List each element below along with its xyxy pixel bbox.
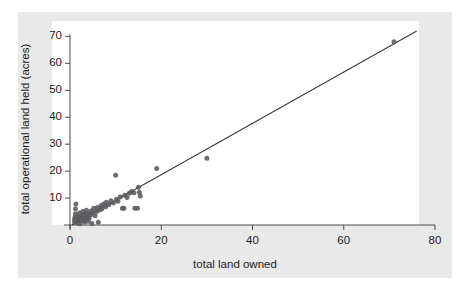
x-tick-label: 0 bbox=[67, 235, 73, 247]
y-tick-label: 20 bbox=[30, 165, 62, 177]
y-tick-label: 30 bbox=[30, 138, 62, 150]
data-points bbox=[72, 39, 396, 226]
y-tick-label: 50 bbox=[30, 85, 62, 97]
y-tick-label: 40 bbox=[30, 111, 62, 123]
y-tick-label: 60 bbox=[30, 58, 62, 70]
x-tick-label: 20 bbox=[155, 235, 168, 247]
y-axis-label: total operational land held (acres) bbox=[19, 19, 31, 239]
x-axis-label: total land owned bbox=[0, 258, 470, 270]
x-tick-label: 60 bbox=[337, 235, 350, 247]
y-tick-label: 10 bbox=[30, 192, 62, 204]
y-tick-label: 70 bbox=[30, 31, 62, 43]
x-tick-label: 40 bbox=[246, 235, 259, 247]
scatter-plot bbox=[0, 0, 470, 290]
x-tick-label: 80 bbox=[429, 235, 442, 247]
